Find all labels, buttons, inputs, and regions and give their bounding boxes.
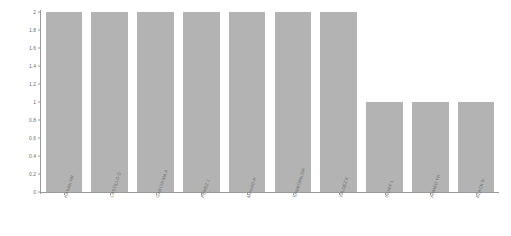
bar-chart-figure: 00.20.40.60.811.21.41.61.82 HASAN HRCAST… [0, 0, 511, 236]
y-tick-label: 1.6 [29, 46, 38, 51]
y-tick: 2 [33, 10, 41, 15]
x-axis-ticks: HASAN HRCASTILLO DGARCIA MA APEREZ JMAGA… [41, 192, 499, 236]
bar [275, 12, 312, 192]
y-tick-label: 1.8 [29, 28, 38, 33]
plot-area: 00.20.40.60.811.21.41.61.82 [41, 12, 499, 192]
y-tick: 1 [33, 100, 41, 105]
y-tick-label: 1.2 [29, 82, 38, 87]
y-tick: 0 [33, 190, 41, 195]
y-tick: 1.2 [29, 82, 41, 87]
y-tick: 1.4 [29, 64, 41, 69]
y-tick: 0.8 [29, 118, 41, 123]
bar [137, 12, 174, 192]
bar [183, 12, 220, 192]
y-tick: 1.8 [29, 28, 41, 33]
bar [320, 12, 357, 192]
bar [46, 12, 83, 192]
y-tick-label: 1.4 [29, 64, 38, 69]
bars-layer [41, 12, 499, 192]
y-tick: 0.4 [29, 154, 41, 159]
bar [458, 102, 495, 192]
y-tick: 0.6 [29, 136, 41, 141]
y-tick-label: 0.8 [29, 118, 38, 123]
y-tick-label: 0.2 [29, 172, 38, 177]
bar [229, 12, 266, 192]
bar [412, 102, 449, 192]
y-tick: 0.2 [29, 172, 41, 177]
y-tick: 1.6 [29, 46, 41, 51]
y-tick-label: 0.6 [29, 136, 38, 141]
bar [366, 102, 403, 192]
bar [91, 12, 128, 192]
y-tick-label: 0.4 [29, 154, 38, 159]
